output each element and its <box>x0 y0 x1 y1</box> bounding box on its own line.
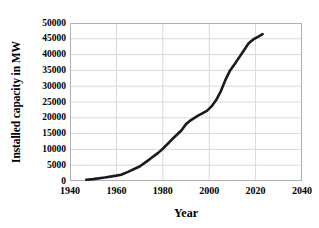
y-tick-label: 50000 <box>22 19 66 28</box>
chart-container: Installed capacity in MW 050001000015000… <box>0 0 319 228</box>
gridlines <box>70 23 302 181</box>
y-tick-label: 10000 <box>22 145 66 154</box>
chart-plot-svg <box>70 23 302 181</box>
x-tick-label: 2020 <box>234 185 278 196</box>
y-axis-title: Installed capacity in MW <box>10 12 22 192</box>
x-tick-label: 1940 <box>48 185 92 196</box>
y-tick-label: 5000 <box>22 161 66 170</box>
y-tick-label: 15000 <box>22 129 66 138</box>
y-tick-label: 25000 <box>22 98 66 107</box>
x-tick-label: 1960 <box>94 185 138 196</box>
x-axis-title: Year <box>70 206 302 221</box>
y-tick-label: 20000 <box>22 113 66 122</box>
chart-title <box>0 0 319 4</box>
x-tick-label: 2040 <box>280 185 319 196</box>
y-tick-label: 40000 <box>22 50 66 59</box>
x-tick-label: 1980 <box>141 185 185 196</box>
y-tick-label: 0 <box>22 177 66 186</box>
y-tick-label: 30000 <box>22 82 66 91</box>
horizontal-gridlines <box>70 39 302 165</box>
plot-area <box>70 23 302 181</box>
y-tick-label: 35000 <box>22 66 66 75</box>
y-tick-label: 45000 <box>22 34 66 43</box>
x-tick-label: 2000 <box>187 185 231 196</box>
data-series-line <box>86 34 262 180</box>
